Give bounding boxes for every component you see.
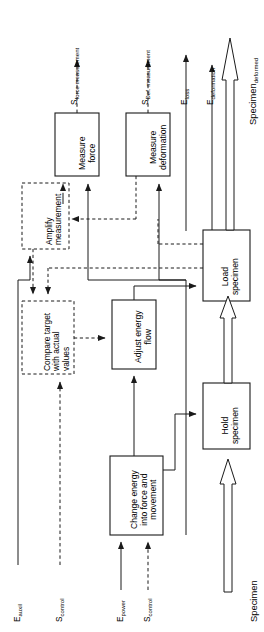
block-diagram-canvas: Measure force Measure deformation Amplif… bbox=[0, 0, 264, 632]
block-amplify-measurement bbox=[22, 183, 69, 249]
block-load-specimen bbox=[203, 230, 250, 301]
diagram-vector-layer bbox=[0, 0, 264, 632]
block-change-energy bbox=[110, 456, 163, 535]
block-measure-deformation bbox=[126, 113, 170, 176]
block-adjust-energy-flow bbox=[112, 300, 156, 369]
arrow-change-to-hold bbox=[163, 414, 196, 470]
arrow-material-hold-to-load bbox=[220, 296, 236, 383]
block-compare-target bbox=[22, 301, 74, 374]
block-measure-force bbox=[55, 113, 99, 176]
arrow-adjust-to-load bbox=[134, 286, 196, 300]
arrow-material-specimen-in bbox=[220, 459, 236, 592]
block-hold-specimen bbox=[203, 383, 250, 449]
arrow-specimen-deformed bbox=[222, 38, 238, 230]
